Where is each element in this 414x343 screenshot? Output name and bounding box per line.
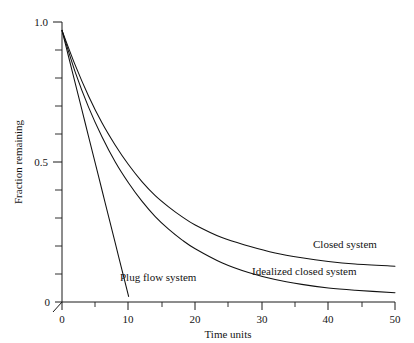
series-label-closed-system: Closed system — [313, 238, 377, 250]
x-tick-label-20: 20 — [190, 313, 202, 325]
y-tick-label-0.5: 0.5 — [34, 156, 48, 168]
y-tick-label-0: 0 — [45, 296, 51, 308]
decay-curves-chart: 1.0 0.5 0 0 10 20 30 40 50 Time units Fr… — [0, 0, 414, 343]
curve-plug-flow-system — [62, 30, 129, 296]
curve-idealized-closed-system — [62, 30, 395, 292]
chart-figure: 1.0 0.5 0 0 10 20 30 40 50 Time units Fr… — [0, 0, 414, 343]
series-label-plug-flow-system: Plug flow system — [120, 271, 197, 283]
x-axis-minor-ticks — [95, 302, 362, 307]
y-axis-title: Fraction remaining — [12, 120, 24, 205]
series-label-idealized-closed-system: Idealized closed system — [252, 265, 357, 277]
x-tick-label-40: 40 — [323, 313, 335, 325]
x-tick-label-30: 30 — [257, 313, 269, 325]
x-axis-major-ticks — [62, 302, 395, 310]
y-axis-major-ticks — [53, 22, 62, 302]
y-tick-label-1.0: 1.0 — [34, 16, 48, 28]
x-tick-label-50: 50 — [390, 313, 402, 325]
origin-spur — [53, 302, 62, 312]
x-tick-label-10: 10 — [123, 313, 135, 325]
x-axis-title: Time units — [205, 328, 252, 340]
x-tick-label-0: 0 — [59, 313, 65, 325]
